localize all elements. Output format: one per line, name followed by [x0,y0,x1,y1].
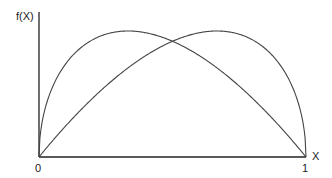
x-axis-label: X [312,151,319,162]
x-tick-0: 0 [35,163,41,174]
y-axis-label: f(X) [16,11,34,22]
density-chart [0,0,332,178]
x-tick-1: 1 [302,163,308,174]
